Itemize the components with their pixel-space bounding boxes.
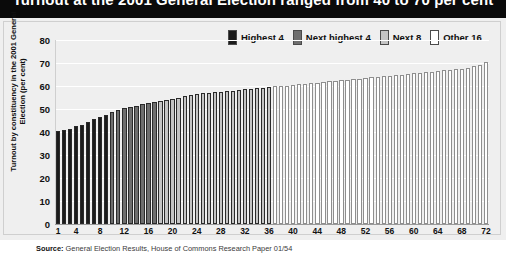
- bar[interactable]: [285, 86, 289, 224]
- bar[interactable]: [92, 119, 96, 224]
- bar[interactable]: [74, 126, 78, 224]
- x-axis-tick-label: 52: [361, 226, 370, 236]
- y-axis-tick-label: 60: [39, 81, 50, 92]
- bar[interactable]: [484, 62, 488, 224]
- bar[interactable]: [321, 82, 325, 224]
- bar[interactable]: [388, 76, 392, 224]
- bar[interactable]: [436, 71, 440, 224]
- bar[interactable]: [442, 70, 446, 224]
- bar[interactable]: [219, 92, 223, 224]
- bar[interactable]: [369, 77, 373, 224]
- bar[interactable]: [327, 81, 331, 224]
- bar[interactable]: [333, 81, 337, 224]
- bar[interactable]: [291, 85, 295, 224]
- bar[interactable]: [170, 99, 174, 224]
- bar[interactable]: [279, 86, 283, 224]
- bar[interactable]: [68, 129, 72, 224]
- bar[interactable]: [406, 74, 410, 224]
- bar[interactable]: [164, 100, 168, 224]
- bar[interactable]: [201, 93, 205, 224]
- bar[interactable]: [454, 69, 458, 224]
- bar[interactable]: [315, 83, 319, 224]
- bar-slot: [483, 40, 489, 224]
- y-axis-tick-label: 70: [39, 58, 50, 69]
- bar[interactable]: [110, 112, 114, 224]
- bar[interactable]: [412, 73, 416, 224]
- bar[interactable]: [472, 66, 476, 224]
- bar[interactable]: [122, 108, 126, 224]
- bar[interactable]: [424, 72, 428, 224]
- x-axis-tick-label: 32: [240, 226, 249, 236]
- bar[interactable]: [189, 95, 193, 224]
- x-axis-tick-label: 60: [409, 226, 418, 236]
- y-axis-tick-label: 30: [39, 150, 50, 161]
- bar[interactable]: [62, 130, 66, 224]
- page-title: Turnout at the 2001 General Election ran…: [13, 0, 494, 8]
- bar[interactable]: [237, 90, 241, 224]
- x-axis-tick-label: 28: [216, 226, 225, 236]
- bar[interactable]: [176, 98, 180, 225]
- y-axis-line: [55, 40, 56, 225]
- bar[interactable]: [243, 89, 247, 224]
- bar[interactable]: [400, 75, 404, 225]
- y-axis-tick-label: 50: [39, 104, 50, 115]
- bar[interactable]: [363, 78, 367, 224]
- source-band: Source: General Election Results, House …: [0, 240, 506, 264]
- y-axis-tick-label: 40: [39, 127, 50, 138]
- bar[interactable]: [376, 77, 380, 224]
- x-axis-tick-labels: 14812162024283236404448525660646872: [55, 226, 489, 240]
- bar[interactable]: [128, 107, 132, 224]
- bar[interactable]: [448, 70, 452, 224]
- bar[interactable]: [478, 65, 482, 224]
- plot-area: [55, 40, 489, 224]
- bar[interactable]: [309, 83, 313, 224]
- bar[interactable]: [255, 88, 259, 224]
- x-axis-tick-label: 16: [144, 226, 153, 236]
- bar[interactable]: [261, 88, 265, 224]
- bar[interactable]: [207, 93, 211, 224]
- bar[interactable]: [430, 72, 434, 224]
- bar[interactable]: [418, 73, 422, 224]
- bar[interactable]: [466, 68, 470, 224]
- bar[interactable]: [140, 104, 144, 224]
- bar[interactable]: [183, 96, 187, 224]
- source-label: Source:: [36, 244, 64, 253]
- source-text: General Election Results, House of Commo…: [64, 244, 293, 253]
- bar[interactable]: [231, 91, 235, 224]
- source-note: Source: General Election Results, House …: [36, 244, 292, 253]
- bar[interactable]: [98, 117, 102, 224]
- bar[interactable]: [225, 91, 229, 224]
- bar[interactable]: [146, 103, 150, 224]
- x-axis-tick-label: 24: [192, 226, 201, 236]
- bar[interactable]: [158, 101, 162, 224]
- bar[interactable]: [357, 79, 361, 224]
- bar[interactable]: [56, 131, 60, 224]
- bar[interactable]: [104, 115, 108, 224]
- bar[interactable]: [460, 69, 464, 224]
- y-axis-title: Turnout by constituency in the 2001 Gene…: [9, 11, 28, 171]
- bar[interactable]: [339, 80, 343, 224]
- bar[interactable]: [303, 84, 307, 224]
- x-axis-tick-label: 68: [457, 226, 466, 236]
- bar[interactable]: [134, 106, 138, 224]
- bar[interactable]: [152, 102, 156, 224]
- x-axis-tick-label: 20: [168, 226, 177, 236]
- bar[interactable]: [351, 79, 355, 224]
- bar[interactable]: [86, 122, 90, 224]
- bar[interactable]: [345, 80, 349, 224]
- bar[interactable]: [116, 110, 120, 224]
- bar[interactable]: [267, 87, 271, 224]
- x-axis-tick-label: 1: [56, 226, 61, 236]
- bar[interactable]: [394, 75, 398, 224]
- bar[interactable]: [297, 84, 301, 224]
- x-axis-tick-label: 40: [288, 226, 297, 236]
- x-axis-tick-label: 4: [74, 226, 79, 236]
- bar[interactable]: [382, 76, 386, 224]
- bar[interactable]: [195, 94, 199, 224]
- bar[interactable]: [80, 125, 84, 224]
- bar[interactable]: [249, 89, 253, 224]
- chart-figure: Turnout at the 2001 General Election ran…: [0, 0, 506, 264]
- chart-title-band: Turnout at the 2001 General Election ran…: [0, 0, 506, 18]
- bar[interactable]: [273, 86, 277, 224]
- bar[interactable]: [213, 92, 217, 224]
